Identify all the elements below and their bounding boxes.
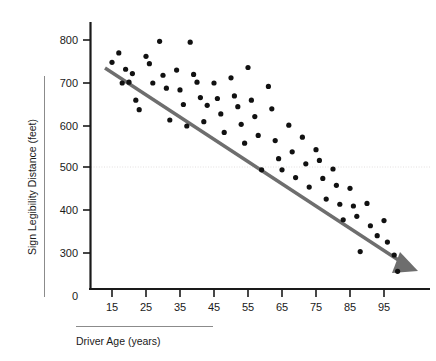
scatter-point — [201, 119, 206, 124]
scatter-point — [341, 217, 346, 222]
y-tick-label-300: 300 — [60, 247, 78, 259]
scatter-point — [307, 184, 312, 189]
x-tick-label-35: 35 — [174, 301, 186, 313]
scatter-point — [215, 96, 220, 101]
scatter-point — [279, 167, 284, 172]
scatter-point — [147, 61, 152, 66]
x-tick-label-55: 55 — [242, 301, 254, 313]
scatter-point — [160, 73, 165, 78]
scatter-point — [334, 183, 339, 188]
scatter-point — [157, 39, 162, 44]
y-tick-label-800: 800 — [60, 34, 78, 46]
x-tick-label-75: 75 — [310, 301, 322, 313]
scatter-point — [286, 123, 291, 128]
scatter-point — [252, 114, 257, 119]
y-tick-label-600: 600 — [60, 120, 78, 132]
scatter-point — [194, 80, 199, 85]
y-tick-label-700: 700 — [60, 77, 78, 89]
scatter-point — [222, 130, 227, 135]
scatter-point — [358, 249, 363, 254]
x-axis-title: Driver Age (years) — [76, 335, 161, 347]
scatter-plot-figure: 800 700 600 500 400 300 0 15 25 35 45 55… — [0, 0, 436, 361]
scatter-point — [126, 80, 131, 85]
y-tick-label-400: 400 — [60, 204, 78, 216]
scatter-point — [177, 87, 182, 92]
scatter-points-layer — [109, 39, 400, 274]
scatter-point — [303, 161, 308, 166]
scatter-point — [116, 50, 121, 55]
scatter-point — [249, 98, 254, 103]
scatter-point — [324, 197, 329, 202]
scatter-point — [385, 240, 390, 245]
scatter-point — [313, 147, 318, 152]
scatter-point — [120, 80, 125, 85]
x-tick-label-45: 45 — [208, 301, 220, 313]
scatter-point — [109, 60, 114, 65]
scatter-point — [256, 133, 261, 138]
scatter-point — [188, 40, 193, 45]
scatter-point — [164, 86, 169, 91]
scatter-point — [211, 80, 216, 85]
x-tick-label-65: 65 — [276, 301, 288, 313]
scatter-point — [198, 95, 203, 100]
scatter-point — [143, 54, 148, 59]
scatter-point — [375, 233, 380, 238]
x-tick-label-95: 95 — [378, 301, 390, 313]
scatter-point — [232, 93, 237, 98]
scatter-point — [235, 104, 240, 109]
scatter-point — [364, 201, 369, 206]
scatter-point — [218, 111, 223, 116]
scatter-point — [137, 107, 142, 112]
scatter-point — [276, 156, 281, 161]
scatter-point — [191, 72, 196, 77]
scatter-point — [167, 117, 172, 122]
scatter-point — [368, 223, 373, 228]
chart-svg: 800 700 600 500 400 300 0 15 25 35 45 55… — [0, 0, 436, 361]
scatter-point — [351, 203, 356, 208]
scatter-point — [130, 71, 135, 76]
scatter-point — [150, 80, 155, 85]
x-tick-label-25: 25 — [140, 301, 152, 313]
scatter-point — [245, 65, 250, 70]
scatter-point — [239, 122, 244, 127]
scatter-point — [269, 106, 274, 111]
scatter-point — [320, 176, 325, 181]
y-tick-label-500: 500 — [60, 161, 78, 173]
y-axis-title: Sign Legibility Distance (feet) — [26, 119, 38, 255]
scatter-point — [205, 103, 210, 108]
y-tick-label-0: 0 — [72, 290, 78, 302]
scatter-point — [381, 218, 386, 223]
scatter-point — [392, 252, 397, 257]
scatter-point — [317, 158, 322, 163]
scatter-point — [174, 68, 179, 73]
scatter-point — [266, 84, 271, 89]
scatter-point — [290, 149, 295, 154]
scatter-point — [133, 98, 138, 103]
y-tick-marks — [83, 40, 90, 253]
x-tick-marks — [112, 289, 384, 297]
scatter-point — [330, 166, 335, 171]
scatter-point — [347, 186, 352, 191]
scatter-point — [123, 67, 128, 72]
x-tick-label-15: 15 — [106, 301, 118, 313]
scatter-point — [259, 167, 264, 172]
scatter-point — [228, 75, 233, 80]
scatter-point — [293, 175, 298, 180]
scatter-point — [395, 269, 400, 274]
x-tick-label-85: 85 — [344, 301, 356, 313]
scatter-point — [300, 135, 305, 140]
scatter-point — [181, 102, 186, 107]
scatter-point — [354, 214, 359, 219]
scatter-point — [337, 202, 342, 207]
scatter-point — [184, 123, 189, 128]
scatter-point — [273, 138, 278, 143]
scatter-point — [242, 141, 247, 146]
